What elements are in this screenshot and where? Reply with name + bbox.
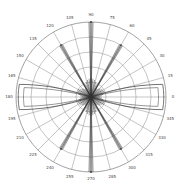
angle-tick-label: 0 xyxy=(172,94,175,99)
angle-tick-label: 240 xyxy=(46,165,54,170)
angle-tick-label: 315 xyxy=(145,152,153,157)
angle-tick-label: 15 xyxy=(168,73,174,78)
angle-tick-label: 180 xyxy=(5,94,13,99)
polar-chart: 0153045607590105120135150165180195210225… xyxy=(0,0,187,194)
angle-tick-label: 75 xyxy=(110,15,116,20)
angle-tick-label: 345 xyxy=(166,116,174,121)
angle-tick-label: 285 xyxy=(108,174,116,179)
spike-tip-marker xyxy=(120,44,122,46)
angle-tick-label: 300 xyxy=(128,165,136,170)
angle-tick-label: 210 xyxy=(16,135,24,140)
angle-tick-label: 330 xyxy=(158,135,166,140)
angle-tick-label: 165 xyxy=(8,73,16,78)
spike-tip-marker xyxy=(120,148,122,150)
spike-tip-marker xyxy=(90,171,92,173)
spike-tip-marker xyxy=(60,44,62,46)
angle-tick-label: 195 xyxy=(8,116,16,121)
angle-tick-label: 135 xyxy=(29,36,37,41)
grid-spoke xyxy=(72,25,91,97)
angle-tick-label: 45 xyxy=(146,36,152,41)
angle-tick-label: 60 xyxy=(129,23,135,28)
angle-tick-label: 270 xyxy=(87,176,95,181)
angle-tick-label: 150 xyxy=(16,53,24,58)
angle-tick-label: 30 xyxy=(159,53,165,58)
angle-tick-label: 225 xyxy=(29,152,37,157)
angle-tick-label: 255 xyxy=(66,174,74,179)
angle-tick-label: 120 xyxy=(46,23,54,28)
grid-spoke xyxy=(72,97,91,169)
grid-spoke xyxy=(91,97,110,169)
spike-tip-marker xyxy=(60,148,62,150)
spike-tip-marker xyxy=(90,21,92,23)
angle-tick-label: 105 xyxy=(66,15,74,20)
grid-spoke xyxy=(91,25,110,97)
angle-tick-label: 90 xyxy=(88,12,94,17)
